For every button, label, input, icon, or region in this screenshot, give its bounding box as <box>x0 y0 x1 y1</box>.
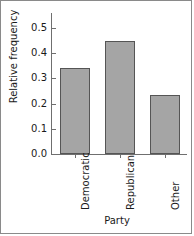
bar-chart-figure: Relative frequency 0.00.10.20.30.40.5 De… <box>0 0 192 234</box>
x-axis-line <box>51 154 187 155</box>
x-tick-mark <box>75 155 76 158</box>
y-tick-mark <box>52 78 56 79</box>
bar <box>105 41 135 154</box>
bar <box>60 68 90 154</box>
y-tick-mark <box>52 104 56 105</box>
x-tick-label: Democratic <box>80 152 91 210</box>
y-tick-label: 0.3 <box>17 73 47 83</box>
y-tick-label: 0.2 <box>17 99 47 109</box>
x-tick-label: Other <box>170 182 181 210</box>
y-tick-label: 0.0 <box>17 149 47 159</box>
bar <box>150 95 180 154</box>
x-axis-title: Party <box>47 215 187 226</box>
y-tick-mark <box>52 129 56 130</box>
x-tick-mark <box>165 155 166 158</box>
y-tick-mark <box>52 53 56 54</box>
x-tick-mark <box>120 155 121 158</box>
y-axis-line <box>51 13 52 155</box>
y-tick-mark <box>52 154 56 155</box>
y-tick-label: 0.1 <box>17 124 47 134</box>
x-tick-label: Republican <box>125 155 136 210</box>
y-tick-label: 0.5 <box>17 23 47 33</box>
y-tick-label: 0.4 <box>17 48 47 58</box>
y-tick-mark <box>52 28 56 29</box>
